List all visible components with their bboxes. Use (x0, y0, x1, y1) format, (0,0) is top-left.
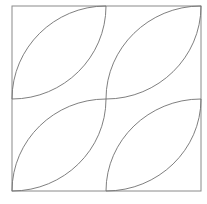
lens-arc-top-right-lower (106, 6, 201, 99)
lens-arc-top-right-upper (106, 6, 201, 99)
outer-frame (12, 6, 201, 191)
lens-shapes-group (12, 6, 201, 191)
lens-arc-bottom-right-lower (106, 99, 201, 191)
lens-arc-bottom-left-upper (12, 99, 106, 191)
lens-arc-bottom-right-upper (106, 99, 201, 191)
lens-arc-top-left-upper (12, 6, 106, 99)
quilt-pattern-diagram (0, 0, 207, 204)
lens-arc-top-left-lower (12, 6, 106, 99)
lens-arc-bottom-left-lower (12, 99, 106, 191)
